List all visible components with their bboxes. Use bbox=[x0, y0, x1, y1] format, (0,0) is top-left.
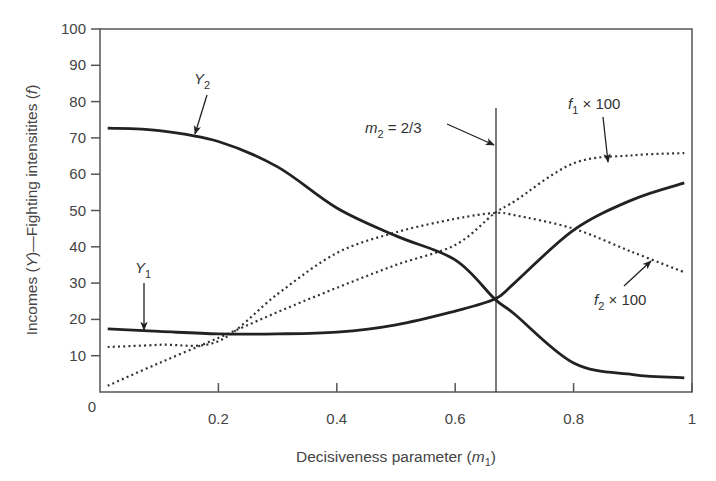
annotation-f1: f1 × 100 bbox=[568, 95, 620, 162]
annotation-y1: Y1 bbox=[135, 259, 151, 330]
annotation-y2: Y2 bbox=[194, 70, 210, 134]
annotation-f2: f2 × 100 bbox=[594, 261, 651, 312]
annotation-m2: m2 = 2/3 bbox=[365, 119, 494, 145]
y2-curve bbox=[108, 128, 685, 378]
y-tick-label: 30 bbox=[69, 274, 86, 291]
y-axis: 102030405060708090100 bbox=[61, 20, 100, 364]
x-axis: 0.20.40.60.81 bbox=[208, 383, 696, 427]
arrow-icon bbox=[447, 124, 494, 145]
svg-text:f2 × 100: f2 × 100 bbox=[594, 291, 646, 312]
x-tick-label: 0.2 bbox=[208, 410, 229, 427]
y-tick-label: 40 bbox=[69, 238, 86, 255]
f2-curve bbox=[108, 213, 685, 347]
arrow-icon bbox=[624, 261, 651, 286]
x-tick-label: 0.4 bbox=[326, 410, 347, 427]
x-tick-label: 1 bbox=[688, 410, 696, 427]
svg-text:Y1: Y1 bbox=[135, 259, 151, 280]
x-tick-label: 0.8 bbox=[563, 410, 584, 427]
y-tick-label: 60 bbox=[69, 165, 86, 182]
y-tick-label: 80 bbox=[69, 93, 86, 110]
chart: 102030405060708090100 0.20.40.60.81 0 Y2… bbox=[0, 0, 716, 481]
arrow-icon bbox=[603, 117, 608, 162]
svg-text:m2 = 2/3: m2 = 2/3 bbox=[365, 119, 422, 140]
f1-curve bbox=[108, 153, 685, 386]
x-axis-title: Decisiveness parameter (m1) bbox=[296, 448, 496, 468]
y-tick-label: 10 bbox=[69, 347, 86, 364]
y-tick-label: 90 bbox=[69, 56, 86, 73]
origin-label: 0 bbox=[88, 398, 96, 415]
plot-frame bbox=[100, 29, 692, 392]
y-tick-label: 20 bbox=[69, 310, 86, 327]
y-axis-title: Incomes (Y)—Fighting intensitites (f) bbox=[23, 85, 40, 336]
arrow-icon bbox=[195, 95, 207, 134]
x-tick-label: 0.6 bbox=[445, 410, 466, 427]
svg-text:f1 × 100: f1 × 100 bbox=[568, 95, 620, 116]
y-tick-label: 100 bbox=[61, 20, 86, 37]
svg-text:Y2: Y2 bbox=[194, 70, 210, 91]
y-tick-label: 70 bbox=[69, 129, 86, 146]
y-tick-label: 50 bbox=[69, 202, 86, 219]
